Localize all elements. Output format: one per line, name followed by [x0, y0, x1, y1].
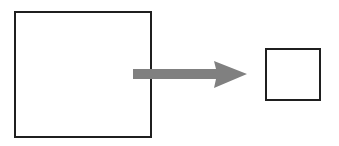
diagram-canvas	[0, 0, 339, 146]
small-square	[265, 48, 321, 101]
large-square	[14, 11, 152, 138]
